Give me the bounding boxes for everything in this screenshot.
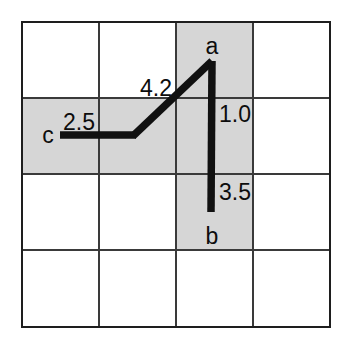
diagram-canvas: a b c 2.5 4.2 1.0 3.5 bbox=[0, 0, 350, 350]
edge-a-to-b bbox=[211, 61, 212, 212]
edge-weight-4-2: 4.2 bbox=[140, 75, 172, 101]
node-label-b: b bbox=[206, 223, 219, 249]
figure-root: a b c 2.5 4.2 1.0 3.5 bbox=[0, 0, 350, 350]
edge-weight-2-5: 2.5 bbox=[63, 109, 95, 135]
node-label-a: a bbox=[206, 33, 219, 59]
edge-weight-1-0: 1.0 bbox=[219, 101, 251, 127]
edge-weight-3-5: 3.5 bbox=[219, 179, 251, 205]
node-label-c: c bbox=[42, 122, 54, 148]
grid-lines-group bbox=[22, 22, 330, 327]
